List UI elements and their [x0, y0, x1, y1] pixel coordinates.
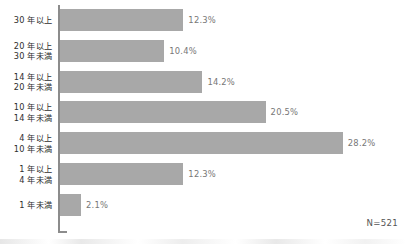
bar — [60, 194, 81, 216]
sample-size-annotation: N=521 — [366, 218, 398, 228]
bar-value-label: 14.2% — [207, 77, 235, 87]
bar-value-label: 2.1% — [86, 200, 108, 210]
category-label: 20 年以上 30 年未満 — [0, 40, 52, 61]
bar — [60, 101, 266, 123]
bar-row: 30 年以上12.3% — [0, 9, 406, 31]
bar — [60, 9, 183, 31]
bar-row: 20 年以上 30 年未満10.4% — [0, 40, 406, 62]
category-label: 10 年以上 14 年未満 — [0, 102, 52, 123]
bar-row: 1 年未満2.1% — [0, 194, 406, 216]
bar — [60, 71, 202, 93]
scan-artifact — [0, 239, 406, 244]
category-label: 30 年以上 — [0, 15, 52, 26]
bar-value-label: 28.2% — [348, 138, 376, 148]
bar-value-label: 10.4% — [169, 46, 197, 56]
bar-chart: 30 年以上12.3%20 年以上 30 年未満10.4%14 年以上 20 年… — [0, 0, 406, 244]
bar-value-label: 12.3% — [188, 169, 216, 179]
bar-value-label: 12.3% — [188, 15, 216, 25]
bar — [60, 163, 183, 185]
bar-row: 14 年以上 20 年未満14.2% — [0, 71, 406, 93]
category-label: 1 年以上 4 年未満 — [0, 164, 52, 185]
bar-row: 1 年以上 4 年未満12.3% — [0, 163, 406, 185]
category-label: 1 年未満 — [0, 200, 52, 211]
bar-row: 10 年以上 14 年未満20.5% — [0, 101, 406, 123]
bar — [60, 40, 164, 62]
bar-row: 4 年以上 10 年未満28.2% — [0, 132, 406, 154]
bar — [60, 132, 343, 154]
category-label: 4 年以上 10 年未満 — [0, 133, 52, 154]
y-axis-foot-tick — [58, 231, 67, 233]
bar-value-label: 20.5% — [271, 107, 299, 117]
category-label: 14 年以上 20 年未満 — [0, 71, 52, 92]
